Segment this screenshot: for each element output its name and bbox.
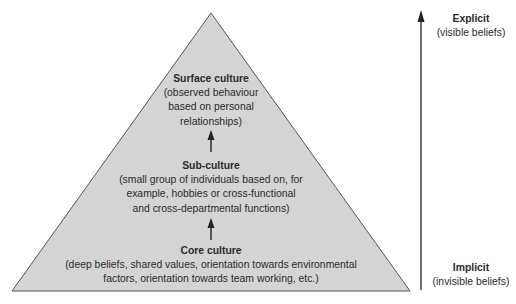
- level-desc-line: (small group of individuals based on, fo…: [61, 173, 361, 187]
- axis-label-subtitle: (visible beliefs): [426, 26, 516, 40]
- level-core-culture: Core culture (deep beliefs, shared value…: [11, 244, 411, 287]
- level-title: Surface culture: [111, 72, 311, 86]
- level-title: Sub-culture: [61, 159, 361, 173]
- axis-label-explicit: Explicit (visible beliefs): [426, 12, 516, 40]
- level-surface-culture: Surface culture (observed behaviour base…: [111, 72, 311, 129]
- level-title: Core culture: [11, 244, 411, 258]
- level-desc-line: based on personal: [111, 100, 311, 114]
- level-desc-line: (deep beliefs, shared values, orientatio…: [11, 258, 411, 272]
- axis-label-title: Implicit: [426, 261, 516, 275]
- axis-arrowhead-icon: [418, 10, 425, 22]
- level-sub-culture: Sub-culture (small group of individuals …: [61, 159, 361, 216]
- axis-label-title: Explicit: [426, 12, 516, 26]
- axis-label-implicit: Implicit (invisible beliefs): [426, 261, 516, 289]
- level-desc-line: example, hobbies or cross-functional: [61, 187, 361, 201]
- level-desc-line: and cross-departmental functions): [61, 202, 361, 216]
- level-desc-line: relationships): [111, 115, 311, 129]
- level-desc-line: factors, orientation towards team workin…: [11, 272, 411, 286]
- level-desc-line: (observed behaviour: [111, 86, 311, 100]
- axis-label-subtitle: (invisible beliefs): [426, 275, 516, 289]
